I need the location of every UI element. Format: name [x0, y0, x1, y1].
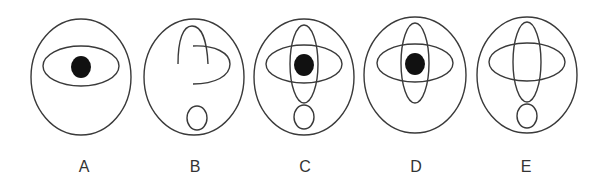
option-a-figure [31, 19, 131, 135]
option-label-e: E [511, 158, 541, 176]
bottom-oval [294, 105, 314, 129]
option-c-figure [254, 19, 354, 135]
vertical-ellipse [513, 22, 541, 102]
option-label-c: C [290, 158, 320, 176]
center-dot [294, 54, 314, 76]
bottom-oval [517, 104, 537, 128]
option-b-figure [144, 19, 244, 135]
outer-circle [254, 19, 354, 135]
option-label-a: A [69, 158, 99, 176]
partial-vertical-arc [178, 26, 208, 64]
bottom-oval [187, 106, 207, 130]
option-label-b: B [180, 158, 210, 176]
option-e-figure [477, 17, 577, 133]
center-dot [71, 56, 91, 78]
outer-circle [144, 19, 244, 135]
horizontal-ellipse [489, 43, 565, 81]
outer-circle [477, 17, 577, 133]
option-label-d: D [401, 158, 431, 176]
partial-horizontal-arc [193, 46, 230, 84]
option-d-figure [364, 17, 466, 133]
center-dot [405, 53, 425, 75]
